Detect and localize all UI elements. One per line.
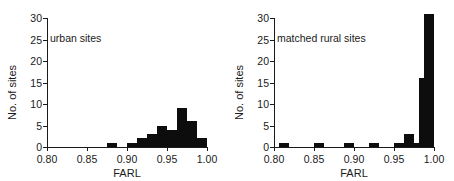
- x-axis-tick-label: 1.00: [424, 154, 444, 165]
- x-axis-label-rural: FARL: [274, 168, 434, 179]
- y-axis-tick: [270, 61, 274, 62]
- histogram-bar: [177, 108, 187, 147]
- y-axis-tick: [270, 40, 274, 41]
- y-axis-tick: [43, 18, 47, 19]
- histogram-figure: No. of sites urban sites 051015202530 0.…: [0, 0, 454, 181]
- x-axis-tick: [167, 147, 168, 151]
- bars-urban: [47, 18, 207, 147]
- y-axis-tick-label: 0: [36, 142, 42, 153]
- x-axis-tick-label: 0.95: [157, 154, 177, 165]
- histogram-bar: [404, 134, 414, 147]
- histogram-bar: [424, 14, 434, 147]
- y-axis-tick-label: 25: [30, 34, 42, 45]
- histogram-bar: [369, 143, 379, 147]
- y-axis-label-holder-urban: No. of sites: [8, 18, 21, 147]
- x-axis-tick: [127, 147, 128, 151]
- x-axis-tick-label: 0.85: [304, 154, 324, 165]
- histogram-bar: [314, 143, 324, 147]
- bars-rural: [274, 18, 434, 147]
- histogram-bar: [187, 121, 197, 147]
- y-axis-label-urban: No. of sites: [7, 28, 18, 157]
- histogram-bar: [157, 126, 167, 148]
- x-axis-tick: [274, 147, 275, 151]
- x-axis-tick: [434, 147, 435, 151]
- x-axis-tick-label: 0.80: [37, 154, 57, 165]
- x-axis-tick-label: 0.85: [77, 154, 97, 165]
- y-axis-tick: [270, 18, 274, 19]
- y-axis-tick: [43, 61, 47, 62]
- x-axis-tick-label: 1.00: [197, 154, 217, 165]
- x-axis-tick: [354, 147, 355, 151]
- histogram-bar: [344, 143, 354, 147]
- y-axis-tick-label: 0: [263, 142, 269, 153]
- panel-matched-rural-sites: No. of sites matched rural sites 0510152…: [227, 0, 454, 181]
- histogram-bar: [167, 130, 177, 147]
- panel-urban-sites: No. of sites urban sites 051015202530 0.…: [0, 0, 227, 181]
- x-axis-tick: [207, 147, 208, 151]
- x-axis-tick: [314, 147, 315, 151]
- y-axis-tick: [43, 104, 47, 105]
- x-axis-tick: [47, 147, 48, 151]
- histogram-bar: [127, 143, 137, 147]
- plot-area-urban: 051015202530 0.800.850.900.951.00 FARL: [47, 18, 207, 147]
- y-axis-tick: [43, 126, 47, 127]
- histogram-bar: [197, 138, 207, 147]
- y-axis-tick-label: 5: [36, 120, 42, 131]
- y-axis-label-rural: No. of sites: [234, 28, 245, 157]
- y-axis-tick: [43, 40, 47, 41]
- y-axis-tick: [43, 83, 47, 84]
- x-axis-tick: [87, 147, 88, 151]
- histogram-bar: [279, 143, 289, 147]
- y-axis-tick-label: 30: [257, 13, 269, 24]
- y-axis-tick-label: 10: [30, 99, 42, 110]
- x-axis-label-urban: FARL: [47, 168, 207, 179]
- y-axis-tick-label: 30: [30, 13, 42, 24]
- y-axis-tick-label: 10: [257, 99, 269, 110]
- x-axis-tick-label: 0.90: [117, 154, 137, 165]
- y-axis-tick-label: 15: [30, 77, 42, 88]
- plot-area-rural: 051015202530 0.800.850.900.951.00 FARL: [274, 18, 434, 147]
- x-axis-tick-label: 0.80: [264, 154, 284, 165]
- x-axis-tick-label: 0.90: [344, 154, 364, 165]
- histogram-bar: [107, 143, 117, 147]
- y-axis-tick-label: 20: [30, 56, 42, 67]
- y-axis-tick: [270, 126, 274, 127]
- histogram-bar: [137, 138, 147, 147]
- y-axis-tick: [270, 83, 274, 84]
- y-axis-tick-label: 20: [257, 56, 269, 67]
- y-axis-tick-label: 5: [263, 120, 269, 131]
- histogram-bar: [394, 143, 404, 147]
- y-axis-tick-label: 15: [257, 77, 269, 88]
- y-axis-label-holder-rural: No. of sites: [235, 18, 248, 147]
- x-axis-tick-label: 0.95: [384, 154, 404, 165]
- y-axis-tick: [270, 104, 274, 105]
- y-axis-tick-label: 25: [257, 34, 269, 45]
- x-axis-tick: [394, 147, 395, 151]
- histogram-bar: [147, 134, 157, 147]
